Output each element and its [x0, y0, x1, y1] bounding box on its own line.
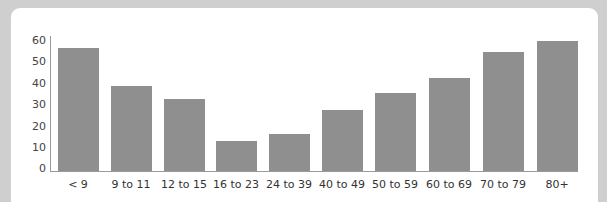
- bar: [216, 141, 257, 171]
- bar: [483, 52, 524, 171]
- x-tick-label: < 9: [48, 178, 108, 191]
- bar: [164, 99, 205, 171]
- y-tick-label: 60: [24, 35, 46, 47]
- bar: [58, 48, 99, 171]
- bar-chart: 0 10 20 30 40 50 60 < 9 9 to 11 12 to 15…: [0, 0, 607, 202]
- x-axis-line: [50, 171, 578, 172]
- y-tick-label: 40: [24, 78, 46, 90]
- x-tick-label: 9 to 11: [101, 178, 161, 191]
- bar: [537, 41, 578, 171]
- x-tick-label: 70 to 79: [473, 178, 533, 191]
- y-tick-label: 0: [24, 163, 46, 175]
- x-tick-label: 16 to 23: [206, 178, 266, 191]
- bar: [322, 110, 363, 171]
- x-tick-label: 50 to 59: [365, 178, 425, 191]
- x-tick-label: 80+: [527, 178, 587, 191]
- x-tick-label: 60 to 69: [419, 178, 479, 191]
- x-tick-label: 40 to 49: [312, 178, 372, 191]
- bar: [429, 78, 470, 171]
- x-tick-label: 24 to 39: [259, 178, 319, 191]
- bar: [375, 93, 416, 171]
- y-tick-label: 10: [24, 142, 46, 154]
- y-axis-line: [50, 36, 51, 171]
- bar: [269, 134, 310, 171]
- y-tick-label: 20: [24, 121, 46, 133]
- y-tick-label: 50: [24, 56, 46, 68]
- y-tick-label: 30: [24, 99, 46, 111]
- bar: [111, 86, 152, 171]
- x-tick-label: 12 to 15: [154, 178, 214, 191]
